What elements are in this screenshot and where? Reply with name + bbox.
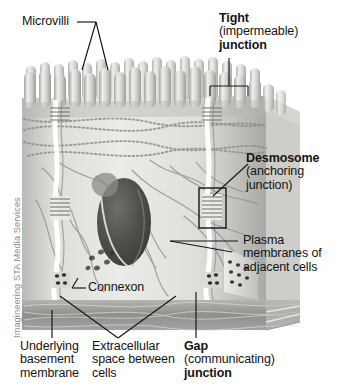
label-tight-junction: Tight (impermeable) junction bbox=[219, 12, 298, 52]
tight-junction-line-1: Tight bbox=[219, 12, 298, 25]
desmosome-line-1: Desmosome bbox=[246, 152, 319, 165]
label-basement-membrane: Underlying basement membrane bbox=[20, 340, 79, 380]
tight-junction-line-3: junction bbox=[219, 39, 298, 52]
left-desmosome bbox=[50, 196, 70, 220]
tight-junction-line-2: (impermeable) bbox=[219, 25, 298, 38]
desmosome-line-3: junction) bbox=[246, 179, 319, 192]
label-extracellular-space: Extracellular space between cells bbox=[92, 340, 175, 380]
label-gap-junction: Gap (communicating) junction bbox=[184, 340, 275, 380]
desmosome-line-2: (anchoring bbox=[246, 165, 319, 178]
extracellular-line-3: cells bbox=[92, 367, 175, 380]
label-connexon: Connexon bbox=[88, 281, 144, 294]
extracellular-line-1: Extracellular bbox=[92, 340, 175, 353]
plasma-line-3: adjacent cells bbox=[243, 261, 322, 274]
gap-line-3: junction bbox=[184, 367, 275, 380]
basement-line-3: membrane bbox=[20, 367, 79, 380]
plasma-line-1: Plasma bbox=[243, 234, 322, 247]
basement-membrane bbox=[22, 300, 300, 330]
right-gap-junction bbox=[204, 272, 222, 288]
label-desmosome: Desmosome (anchoring junction) bbox=[246, 152, 319, 192]
label-microvilli: Microvilli bbox=[22, 15, 69, 28]
gap-line-2: (communicating) bbox=[184, 353, 275, 366]
illustration bbox=[0, 0, 340, 387]
basement-line-1: Underlying bbox=[20, 340, 79, 353]
basement-line-2: basement bbox=[20, 353, 79, 366]
left-gap-junction bbox=[52, 272, 70, 288]
cell-junction-figure: Microvilli Tight (impermeable) junction … bbox=[0, 0, 340, 387]
gap-line-1: Gap bbox=[184, 340, 275, 353]
plasma-line-2: membranes of bbox=[243, 247, 322, 260]
label-plasma-membranes: Plasma membranes of adjacent cells bbox=[243, 234, 322, 274]
extracellular-line-2: space between bbox=[92, 353, 175, 366]
image-credit: Imagineering STA Media Services bbox=[12, 188, 22, 338]
right-desmosome bbox=[202, 194, 222, 220]
